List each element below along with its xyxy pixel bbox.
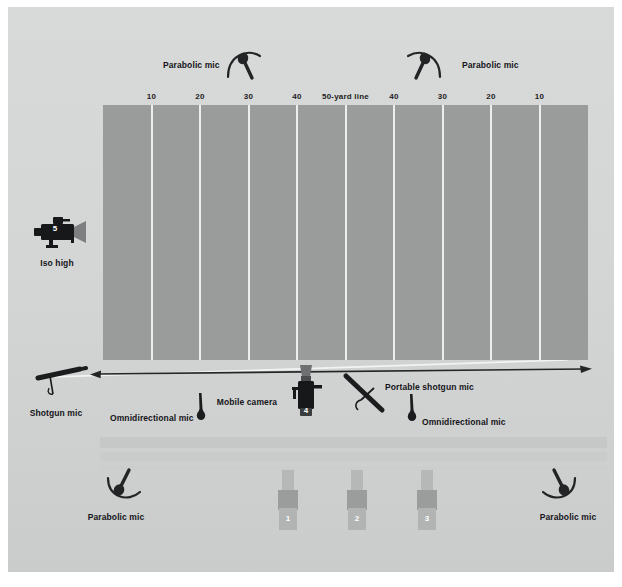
yard-line-label: 10 — [535, 92, 544, 101]
parabolic-mic-bottom-right-label: Parabolic mic — [540, 512, 597, 522]
mobile-camera-number: 4 — [304, 406, 308, 415]
portable-shotgun-mic-label: Portable shotgun mic — [385, 382, 474, 392]
parabolic-mic-bottom-left-label: Parabolic mic — [88, 512, 145, 522]
shotgun-mic-label: Shotgun mic — [30, 408, 83, 418]
iso-high-camera-number: 5 — [53, 224, 57, 233]
yard-line-label: 10 — [147, 92, 156, 101]
yard-line-label: 40 — [292, 92, 301, 101]
parabolic-mic-icon — [535, 463, 579, 505]
yard-line-label: 20 — [486, 92, 495, 101]
diagram-root: Parabolic mic Parabolic mic 1020304050-y… — [0, 0, 622, 587]
omnidirectional-mic-icon — [403, 392, 421, 426]
yard-line-label: 40 — [389, 92, 398, 101]
sideline-camera: 3 — [415, 470, 439, 532]
yard-line-label: 50-yard line — [322, 92, 369, 101]
track-band-upper — [100, 437, 607, 448]
football-field — [103, 105, 588, 360]
omnidirectional-mic-left-label: Omnidirectional mic — [110, 413, 194, 423]
camera-number: 2 — [355, 514, 359, 523]
shotgun-mic-icon — [34, 364, 88, 400]
yard-line — [248, 105, 250, 360]
camera-number: 3 — [425, 514, 429, 523]
camera-number: 1 — [286, 514, 290, 523]
sideline-camera: 1 — [276, 470, 300, 532]
mobile-camera-label: Mobile camera — [217, 397, 277, 407]
video-camera-icon — [33, 215, 91, 249]
omnidirectional-mic-icon — [192, 391, 210, 425]
parabolic-mic-icon — [222, 44, 266, 84]
yard-line — [199, 105, 201, 360]
iso-high-label: Iso high — [40, 258, 73, 268]
omnidirectional-mic-right-label: Omnidirectional mic — [422, 417, 506, 427]
yard-line — [539, 105, 541, 360]
portable-shotgun-mic-icon — [340, 372, 394, 418]
sideline-camera: 2 — [345, 470, 369, 532]
parabolic-mic-icon — [104, 463, 148, 505]
yard-line — [345, 105, 347, 360]
yard-line — [442, 105, 444, 360]
yard-line — [151, 105, 153, 360]
yard-line-label: 30 — [244, 92, 253, 101]
yard-line — [296, 105, 298, 360]
yard-line — [393, 105, 395, 360]
yard-line-label: 30 — [438, 92, 447, 101]
parabolic-mic-top-right-label: Parabolic mic — [462, 60, 519, 70]
track-band-lower — [100, 452, 607, 461]
yard-line-label: 20 — [195, 92, 204, 101]
parabolic-mic-top-left-label: Parabolic mic — [163, 60, 220, 70]
yard-line — [490, 105, 492, 360]
parabolic-mic-icon — [402, 44, 446, 84]
